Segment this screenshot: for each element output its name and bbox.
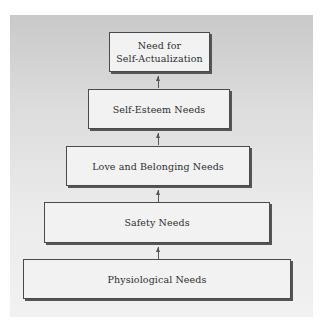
up-arrow-icon (158, 247, 159, 259)
level-label: Love and Belonging Needs (92, 160, 224, 173)
level-love-belonging: Love and Belonging Needs (66, 146, 250, 186)
level-self-esteem: Self-Esteem Needs (88, 89, 230, 129)
level-label-line1: Need for (116, 39, 203, 52)
level-self-actualization: Need for Self-Actualization (109, 32, 210, 72)
level-safety: Safety Needs (44, 202, 270, 243)
level-label-line2: Self-Actualization (116, 52, 203, 65)
level-physiological: Physiological Needs (23, 259, 291, 299)
up-arrow-icon (158, 76, 159, 88)
level-label: Physiological Needs (108, 273, 207, 286)
up-arrow-icon (158, 190, 159, 202)
up-arrow-icon (158, 133, 159, 145)
level-label: Self-Esteem Needs (113, 103, 206, 116)
level-label: Safety Needs (124, 216, 189, 229)
